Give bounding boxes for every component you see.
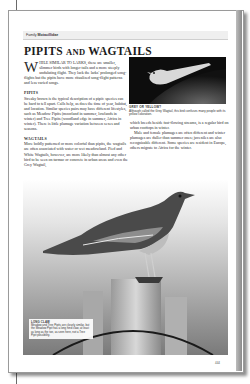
family-name: Motacillidae [38,33,59,37]
page-stack-edge [236,10,242,371]
family-prefix: Family [26,33,37,37]
left-column: WHILE SIMILAR TO LARKS, these are smalle… [24,60,128,167]
right-column: which breeds beside fast-flowing streams… [130,120,230,151]
long-claw-caption: LONG CLAW Meadow and Tree Pipits are clo… [29,319,93,339]
small-photo-caption: GREY OR YELLOW? Although called the Grey… [129,106,229,117]
intro-paragraph: WHILE SIMILAR TO LARKS, these are smalle… [24,60,128,85]
page-title: PIPITS AND WAGTAILS [24,45,152,57]
section-text-pipits: Streaky brown is the typical description… [24,96,128,132]
book-page: Family Motacillidae PIPITS AND WAGTAILS … [8,10,244,373]
family-header: Family Motacillidae [23,31,228,40]
book-spine-line [16,372,17,384]
book-spine-line [16,0,17,10]
grey-wagtail-photo [129,57,226,104]
drop-cap: W [24,61,38,73]
page-number: 444 [215,361,220,365]
section-text-wagtails: More boldly patterned or more colorful t… [24,141,128,166]
